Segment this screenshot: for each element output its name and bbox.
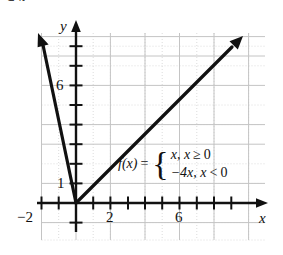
left-brace-icon: { [152,150,168,178]
x-tick-label-2: 2 [106,210,114,225]
case1-value: 0 [204,147,211,162]
case2-relation: < [210,165,218,180]
y-tick-label-6: 6 [56,78,64,93]
function-name: f(x) [118,155,137,173]
equals-sign: = [140,155,148,173]
case-row-negative: −4x, x<0 [171,164,228,182]
piecewise-function-figure: 9.4 [0,0,283,255]
x-tick-label-6: 6 [175,210,183,225]
cases-list: x, x≥0 −4x, x<0 [171,146,228,181]
case-row-nonnegative: x, x≥0 [171,146,228,164]
y-axis-label: y [60,19,67,34]
x-axis-label: x [259,211,266,226]
case1-relation: ≥ [193,147,201,162]
case2-value: 0 [220,165,227,180]
case2-expression: −4x, x [171,165,207,180]
y-tick-label-1: 1 [57,176,65,191]
x-tick-label-neg2: −2 [17,210,33,225]
function-definition-annotation: f(x) = { x, x≥0 −4x, x<0 [118,146,227,181]
x-axis [37,198,268,208]
graph-canvas [0,0,283,255]
case1-expression: x, x [171,147,190,162]
